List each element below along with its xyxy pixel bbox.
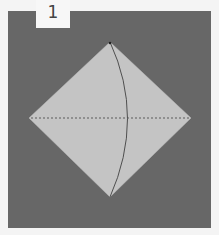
paper-diamond <box>29 42 191 197</box>
top-point-marker <box>109 42 112 45</box>
origami-diagram <box>0 0 219 235</box>
